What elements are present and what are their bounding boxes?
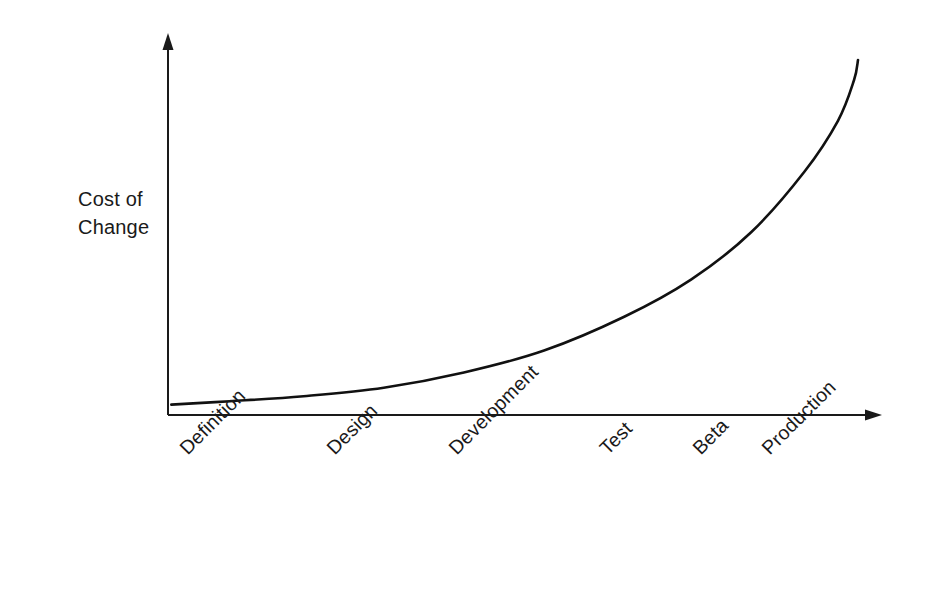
y-axis-label-line-1: Cost of [78, 185, 198, 213]
cost-of-change-curve [171, 60, 858, 405]
y-axis-arrow-icon [163, 33, 174, 50]
y-axis-label-line-2: Change [78, 213, 198, 241]
cost-of-change-chart: Cost of Change Definition Design Develop… [0, 0, 925, 596]
x-axis-arrow-icon [865, 410, 882, 421]
y-axis-label: Cost of Change [78, 185, 198, 242]
chart-plot-area [0, 0, 925, 596]
